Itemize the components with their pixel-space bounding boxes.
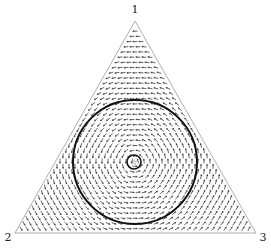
vector-field-arrows: ☆ (20, 30, 251, 231)
svg-text:☆: ☆ (130, 158, 137, 167)
vertex-label-1: 1 (132, 3, 139, 16)
vertex-label-2: 2 (5, 231, 12, 244)
vertex-label-3: 3 (260, 231, 267, 244)
simplex-diagram: ☆ 1 2 3 (0, 0, 271, 251)
simplex-triangle (15, 21, 256, 233)
